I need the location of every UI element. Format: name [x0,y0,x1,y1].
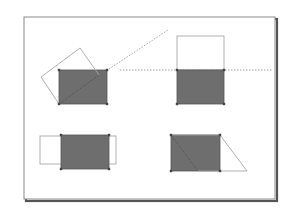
corner-marker [176,69,178,71]
corner-marker [170,134,172,136]
corner-marker [58,69,60,71]
corner-marker [58,103,60,105]
corner-marker [223,69,225,71]
corner-marker [108,134,110,136]
diagram-canvas [0,0,296,215]
corner-marker [108,168,110,170]
corner-marker [170,170,172,172]
filled-rectangle [61,135,109,169]
corner-marker [60,134,62,136]
corner-marker [176,103,178,105]
corner-marker [223,103,225,105]
transformations-diagram [0,0,296,215]
corner-marker [219,134,221,136]
corner-marker [60,168,62,170]
filled-rectangle [177,70,224,104]
corner-marker [106,69,108,71]
filled-rectangle [171,135,220,171]
corner-marker [219,170,221,172]
frame-border [24,17,275,199]
corner-marker [106,103,108,105]
